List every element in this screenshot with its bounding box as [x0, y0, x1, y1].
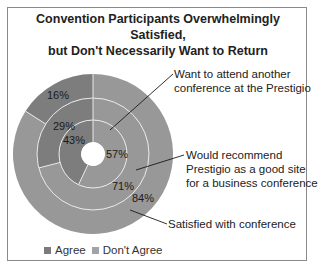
inner-disagree-label: 43% — [63, 134, 85, 146]
callout-attend: Want to attend another conference at the… — [174, 67, 311, 95]
callout-satisfied: Satisfied with conference — [168, 217, 296, 231]
legend-swatch-disagree — [92, 247, 99, 254]
callout-recommend: Would recommend Prestigio as a good site… — [186, 148, 318, 190]
legend-swatch-agree — [44, 247, 51, 254]
callout-recommend-line-3: for a business conference — [186, 176, 318, 190]
callout-recommend-line-2: Prestigio as a good site — [186, 162, 318, 176]
outer-agree-label: 84% — [132, 192, 154, 204]
callout-satisfied-line-1: Satisfied with conference — [168, 217, 296, 231]
legend-item-agree: Agree — [44, 244, 86, 256]
callout-attend-line-2: conference at the Prestigio — [174, 81, 311, 95]
legend-label-agree: Agree — [55, 244, 86, 256]
inner-agree-label: 57% — [106, 148, 128, 160]
callout-attend-line-1: Want to attend another — [174, 67, 311, 81]
callout-recommend-line-1: Would recommend — [186, 148, 318, 162]
legend-label-disagree: Don't Agree — [103, 244, 163, 256]
middle-agree-label: 71% — [112, 180, 134, 192]
outer-disagree-label: 16% — [47, 89, 69, 101]
middle-disagree-label: 29% — [53, 120, 75, 132]
legend-item-disagree: Don't Agree — [92, 244, 163, 256]
chart-legend: Agree Don't Agree — [44, 244, 162, 256]
